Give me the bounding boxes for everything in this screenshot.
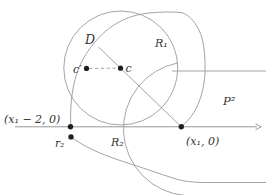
point-c xyxy=(118,66,123,71)
label-region-R2: R₂ xyxy=(110,136,124,149)
label-coord-x1-minus-2: (x₁ − 2, 0) xyxy=(4,113,60,126)
point-r2 xyxy=(68,134,73,139)
point-x1-minus-2 xyxy=(68,124,73,129)
point-x1 xyxy=(179,124,184,129)
label-coord-x1: (x₁, 0) xyxy=(186,135,219,148)
label-disk-D: D xyxy=(84,32,95,47)
figure-canvas: DR₁cc′P²(x₁ − 2, 0)(x₁, 0)r₂R₂ xyxy=(0,0,276,195)
label-point-r2: r₂ xyxy=(55,137,64,149)
label-region-R1: R₁ xyxy=(154,37,168,50)
point-c-prime xyxy=(84,66,89,71)
label-point-c: c xyxy=(126,62,132,75)
math-diagram-svg: DR₁cc′P²(x₁ − 2, 0)(x₁, 0)r₂R₂ xyxy=(0,0,276,195)
label-region-P2: P² xyxy=(222,94,236,108)
label-point-c-prime: c′ xyxy=(73,63,82,76)
